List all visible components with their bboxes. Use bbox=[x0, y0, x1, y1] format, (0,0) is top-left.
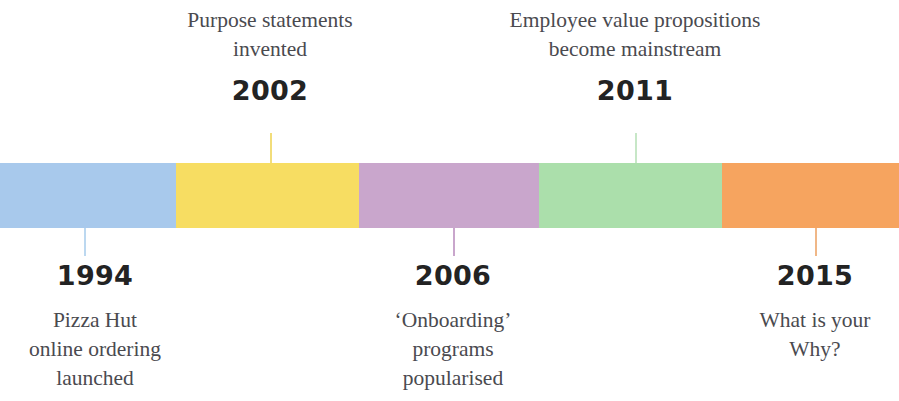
event-description-line: Pizza Hut bbox=[0, 306, 215, 335]
event-year-1994: 1994 bbox=[0, 262, 215, 290]
connector-stem-2002 bbox=[270, 133, 272, 163]
event-description-line: ‘Onboarding’ bbox=[333, 306, 573, 335]
event-2011: Employee value propositionsbecome mainst… bbox=[455, 6, 815, 106]
event-description-line: popularised bbox=[333, 364, 573, 393]
event-description-line: invented bbox=[125, 35, 415, 64]
segment-green bbox=[539, 163, 722, 228]
event-2006: 2006‘Onboarding’programspopularised bbox=[333, 262, 573, 392]
event-1994: 1994Pizza Hutonline orderinglaunched bbox=[0, 262, 215, 392]
event-description-1994: Pizza Hutonline orderinglaunched bbox=[0, 306, 215, 392]
event-year-2011: 2011 bbox=[455, 77, 815, 105]
connector-stem-1994 bbox=[84, 228, 86, 256]
event-description-line: launched bbox=[0, 364, 215, 393]
connector-stem-2011 bbox=[635, 133, 637, 163]
connector-stem-2006 bbox=[453, 228, 455, 256]
segment-blue bbox=[0, 163, 176, 228]
event-year-2006: 2006 bbox=[333, 262, 573, 290]
connector-stem-2015 bbox=[815, 228, 817, 256]
timeline-bar bbox=[0, 163, 899, 228]
event-description-line: become mainstream bbox=[455, 35, 815, 64]
event-2015: 2015What is yourWhy? bbox=[700, 262, 899, 364]
timeline-figure: 1994Pizza Hutonline orderinglaunchedPurp… bbox=[0, 0, 899, 401]
event-description-2015: What is yourWhy? bbox=[700, 306, 899, 363]
event-year-2002: 2002 bbox=[125, 77, 415, 105]
event-2002: Purpose statementsinvented2002 bbox=[125, 6, 415, 106]
event-description-line: Employee value propositions bbox=[455, 6, 815, 35]
event-description-line: programs bbox=[333, 335, 573, 364]
event-description-line: What is your bbox=[700, 306, 899, 335]
event-description-line: Purpose statements bbox=[125, 6, 415, 35]
segment-purple bbox=[359, 163, 539, 228]
event-description-line: online ordering bbox=[0, 335, 215, 364]
event-description-2011: Employee value propositionsbecome mainst… bbox=[455, 6, 815, 63]
event-description-line: Why? bbox=[700, 335, 899, 364]
segment-orange bbox=[722, 163, 899, 228]
event-description-2002: Purpose statementsinvented bbox=[125, 6, 415, 63]
segment-yellow bbox=[176, 163, 359, 228]
event-year-2015: 2015 bbox=[700, 262, 899, 290]
event-description-2006: ‘Onboarding’programspopularised bbox=[333, 306, 573, 392]
